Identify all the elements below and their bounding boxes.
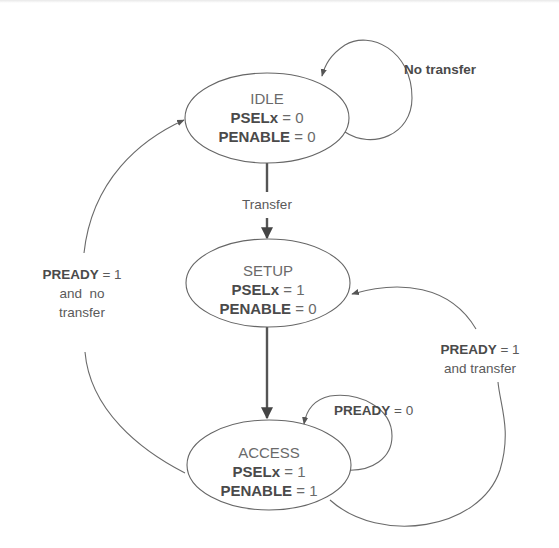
- state-access-penable: PENABLE = 1: [220, 482, 317, 499]
- label-pready-0: PREADY = 0: [334, 403, 413, 418]
- state-idle-psel: PSELx = 0: [231, 109, 304, 126]
- state-idle-penable: PENABLE = 0: [218, 128, 315, 145]
- label-no-transfer: No transfer: [404, 62, 477, 77]
- state-access-psel: PSELx = 1: [233, 463, 306, 480]
- state-setup-name: SETUP: [243, 262, 293, 279]
- state-idle: IDLE PSELx = 0 PENABLE = 0: [185, 73, 349, 163]
- transition-access-to-setup-upper: [352, 287, 476, 329]
- label-pready-1-no-transfer-line3: transfer: [59, 305, 105, 320]
- state-setup-penable: PENABLE = 0: [219, 300, 316, 317]
- label-transfer: Transfer: [242, 197, 292, 212]
- apb-state-diagram: IDLE PSELx = 0 PENABLE = 0 SETUP PSELx =…: [0, 0, 559, 548]
- state-access-name: ACCESS: [238, 444, 300, 461]
- label-pready-1-no-transfer-line1: PREADY = 1: [42, 267, 121, 282]
- label-pready-1-and-transfer-line2: and transfer: [444, 361, 517, 376]
- state-setup-psel: PSELx = 1: [232, 281, 305, 298]
- state-access: ACCESS PSELx = 1 PENABLE = 1: [187, 420, 351, 510]
- transition-access-to-idle-upper: [84, 120, 184, 253]
- state-setup: SETUP PSELx = 1 PENABLE = 0: [186, 239, 350, 327]
- state-idle-name: IDLE: [250, 90, 283, 107]
- transition-access-to-idle-lower: [85, 352, 185, 473]
- label-pready-1-and-transfer-line1: PREADY = 1: [440, 342, 519, 357]
- label-pready-1-no-transfer-line2: and no: [59, 286, 104, 301]
